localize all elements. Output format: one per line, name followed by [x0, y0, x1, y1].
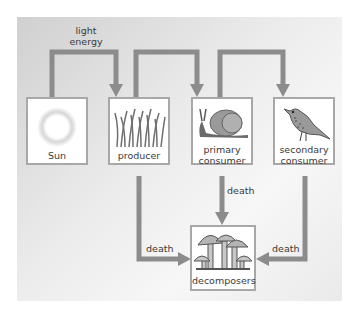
- node-label-line: consumer: [193, 155, 251, 166]
- node-label: secondary consumer: [275, 144, 333, 166]
- node-label-line: secondary: [275, 144, 333, 155]
- node-label: primary consumer: [193, 144, 251, 166]
- sun-icon: [28, 101, 86, 151]
- node-sun: Sun: [26, 97, 88, 165]
- node-secondary-consumer: secondary consumer: [273, 97, 335, 165]
- grass-icon: [111, 103, 169, 149]
- bird-icon: [276, 101, 334, 143]
- edge-label-line: light: [66, 25, 106, 36]
- snail-icon: [194, 103, 252, 143]
- edge-label-death-primary: death: [227, 185, 254, 196]
- node-decomposers: decomposers: [190, 225, 256, 291]
- edge-label-light-energy: light energy: [66, 25, 106, 47]
- mushroom-icon: [192, 229, 254, 273]
- arrow-light-energy: [52, 52, 116, 97]
- arrow-primary-to-secondary: [220, 52, 283, 97]
- node-label-line: consumer: [275, 155, 333, 166]
- node-label: producer: [110, 150, 168, 161]
- node-label-line: primary: [193, 144, 251, 155]
- arrow-producer-to-primary: [136, 52, 197, 97]
- edge-label-line: energy: [66, 36, 106, 47]
- node-producer: producer: [108, 97, 170, 165]
- node-label: decomposers: [192, 275, 254, 286]
- node-primary-consumer: primary consumer: [191, 97, 253, 165]
- node-label: Sun: [28, 150, 86, 161]
- edge-label-death-producer: death: [146, 243, 173, 254]
- edge-label-death-secondary: death: [272, 243, 299, 254]
